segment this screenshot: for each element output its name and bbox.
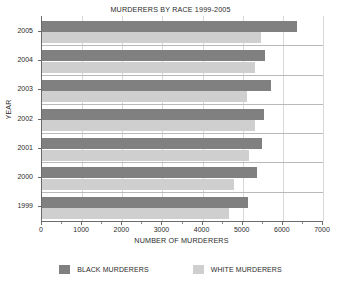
y-tick-label-2004: 2004	[0, 56, 33, 63]
legend-entry-black[interactable]: BLACK MURDERERS	[59, 265, 149, 274]
bar-group	[42, 16, 323, 45]
y-axis-tick-labels: 2005200420032002200120001999	[0, 16, 37, 221]
x-tick-minor	[222, 222, 223, 224]
x-tick-mark	[202, 222, 203, 225]
legend-label: WHITE MURDERERS	[211, 266, 282, 273]
bar-1999-black	[42, 197, 248, 208]
y-tick-label-2001: 2001	[0, 144, 33, 151]
x-tick-minor	[182, 222, 183, 224]
bar-2005-white	[42, 32, 261, 43]
bar-group	[42, 75, 323, 104]
legend-entry-white[interactable]: WHITE MURDERERS	[193, 265, 282, 274]
x-tick-minor	[61, 222, 62, 224]
x-tick-mark	[242, 222, 243, 225]
x-tick-label-0: 0	[24, 226, 58, 233]
bar-2002-white	[42, 120, 255, 131]
x-tick-mark	[322, 222, 323, 225]
vertical-gridline	[323, 16, 324, 221]
y-tick-label-2005: 2005	[0, 27, 33, 34]
chart-title: MURDERERS BY RACE 1999-2005	[0, 5, 341, 14]
bar-2002-black	[42, 109, 264, 120]
x-tick-label-6000: 6000	[265, 226, 299, 233]
bar-2000-black	[42, 167, 257, 178]
x-tick-label-3000: 3000	[144, 226, 178, 233]
x-tick-minor	[101, 222, 102, 224]
x-tick-mark	[282, 222, 283, 225]
x-tick-mark	[41, 222, 42, 225]
bar-2003-black	[42, 80, 271, 91]
legend-swatch-icon	[59, 265, 70, 274]
x-tick-minor	[302, 222, 303, 224]
bar-2004-black	[42, 50, 265, 61]
y-tick-label-1999: 1999	[0, 202, 33, 209]
x-tick-label-7000: 7000	[305, 226, 339, 233]
x-tick-label-5000: 5000	[225, 226, 259, 233]
chart-legend: BLACK MURDERERSWHITE MURDERERS	[0, 261, 341, 277]
legend-swatch-icon	[193, 265, 204, 274]
x-tick-label-1000: 1000	[64, 226, 98, 233]
bar-group	[42, 162, 323, 191]
bar-group	[42, 192, 323, 221]
y-tick-label-2002: 2002	[0, 115, 33, 122]
chart-figure: MURDERERS BY RACE 1999-2005 YEAR 2005200…	[0, 0, 341, 286]
x-tick-minor	[262, 222, 263, 224]
bar-group	[42, 133, 323, 162]
y-tick-label-2003: 2003	[0, 85, 33, 92]
x-tick-minor	[141, 222, 142, 224]
plot-area	[41, 16, 323, 222]
x-tick-mark	[81, 222, 82, 225]
bar-group	[42, 104, 323, 133]
bar-2005-black	[42, 21, 297, 32]
bar-2004-white	[42, 62, 255, 73]
x-tick-label-2000: 2000	[104, 226, 138, 233]
x-axis-title: NUMBER OF MURDERERS	[41, 236, 322, 245]
bar-2003-white	[42, 91, 247, 102]
footer-sliver	[0, 280, 341, 286]
bar-2001-black	[42, 138, 262, 149]
x-tick-label-4000: 4000	[185, 226, 219, 233]
bar-group	[42, 45, 323, 74]
bar-2000-white	[42, 179, 234, 190]
x-tick-mark	[161, 222, 162, 225]
bar-1999-white	[42, 208, 229, 219]
legend-label: BLACK MURDERERS	[77, 266, 149, 273]
y-tick-label-2000: 2000	[0, 173, 33, 180]
x-tick-mark	[121, 222, 122, 225]
bar-2001-white	[42, 150, 249, 161]
